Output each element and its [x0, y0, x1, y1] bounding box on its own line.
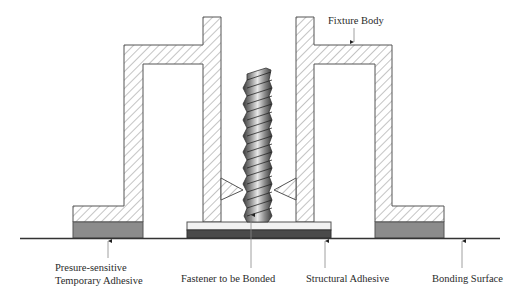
structural-adhesive-layer — [187, 230, 331, 238]
fixture-lip-right — [274, 178, 296, 200]
label-temporary-adhesive-line2: Temporary Adhesive — [55, 274, 143, 287]
temporary-adhesive-right — [375, 222, 444, 238]
fixture-cross-section-diagram — [0, 0, 518, 300]
label-fastener: Fastener to be Bonded — [181, 272, 275, 285]
fastener-screw — [243, 68, 272, 222]
label-structural-adhesive: Structural Adhesive — [306, 272, 389, 285]
label-fixture-body: Fixture Body — [328, 14, 384, 27]
fixture-body-right — [274, 17, 444, 222]
label-bonding-surface: Bonding Surface — [432, 272, 503, 285]
temporary-adhesive-left — [73, 222, 143, 238]
fastener-base-plate — [187, 222, 331, 230]
fixture-body-left — [73, 17, 243, 222]
fixture-lip-left — [221, 178, 243, 200]
label-temporary-adhesive-line1: Presure-sensitive — [55, 261, 127, 274]
